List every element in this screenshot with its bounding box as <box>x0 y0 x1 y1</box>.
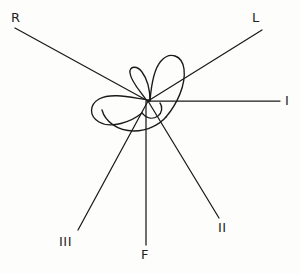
label-f: F <box>141 248 149 261</box>
ray-line-ii <box>148 101 219 218</box>
figure-canvas: R L I II III F <box>0 0 300 274</box>
label-r: R <box>11 11 21 24</box>
right-loop-curve <box>150 55 184 117</box>
ray-line-l <box>148 30 262 101</box>
ray-line-r <box>15 28 148 101</box>
inner-tail-curve <box>142 103 162 118</box>
ray-line-iii <box>78 101 148 230</box>
label-l: L <box>252 11 260 24</box>
label-iii: III <box>59 235 72 248</box>
diagram-svg <box>0 0 300 274</box>
label-ii: II <box>218 221 227 234</box>
label-i: I <box>285 94 289 107</box>
ray-group <box>15 28 280 245</box>
left-loop-curve <box>92 96 150 125</box>
